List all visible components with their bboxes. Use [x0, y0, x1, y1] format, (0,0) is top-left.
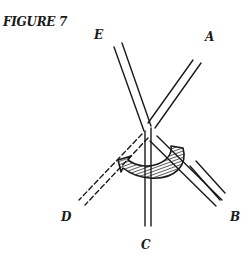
strand-a	[148, 60, 201, 128]
rope-diagram	[0, 0, 251, 265]
strand-e	[114, 43, 151, 131]
